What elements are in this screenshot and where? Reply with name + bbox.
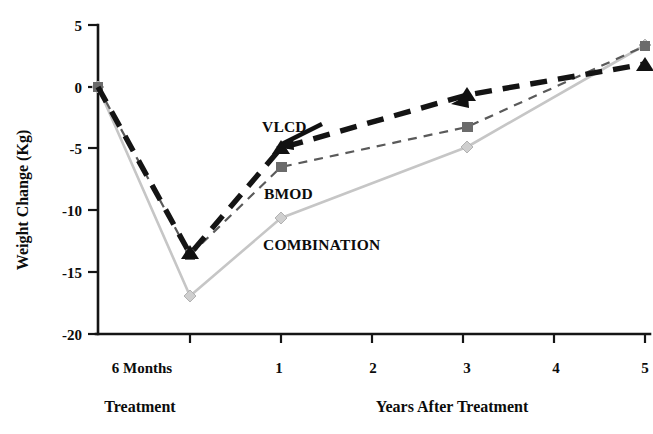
x-tick-label-3: 3 [463, 360, 471, 376]
vlcd-markers [181, 57, 653, 259]
y-tick-label-5: 5 [75, 18, 83, 34]
y-tick-label-m5: -5 [70, 141, 83, 157]
bmod-marker-year-1 [276, 162, 287, 172]
y-tick-label-m15: -15 [62, 265, 82, 281]
y-tick-label-0: 0 [75, 80, 83, 96]
y-axis-title: Weight Change (Kg) [14, 130, 32, 270]
chart-canvas: Weight Change (Kg) 5 0 -5 -10 -15 -20 [0, 0, 653, 434]
vlcd-marker-year-5 [636, 57, 653, 71]
series-bmod [93, 41, 650, 260]
x-axis-title: Years After Treatment [376, 398, 529, 415]
series-label-bmod: BMOD [264, 185, 313, 202]
y-tick-group: 5 0 -5 -10 -15 -20 [62, 18, 98, 343]
x-axis-title-left: Treatment [104, 398, 176, 415]
series-label-vlcd: VLCD [262, 118, 307, 135]
y-tick-label-m20: -20 [62, 327, 82, 343]
series-label-combination: COMBINATION [263, 236, 380, 253]
x-tick-group: 6 Months 1 2 3 4 5 [112, 334, 649, 376]
axes-group [96, 25, 650, 334]
bmod-marker-year-3 [462, 122, 473, 132]
x-tick-label-5: 5 [641, 360, 649, 376]
y-tick-label-m10: -10 [62, 203, 82, 219]
x-tick-label-1: 1 [275, 360, 283, 376]
x-tick-label-2: 2 [369, 360, 377, 376]
x-tick-label-4: 4 [552, 360, 560, 376]
weight-change-line-chart: Weight Change (Kg) 5 0 -5 -10 -15 -20 [0, 0, 653, 434]
bmod-markers [93, 41, 650, 260]
combination-marker-year-3 [461, 141, 473, 153]
bmod-marker-year-5 [640, 41, 650, 51]
x-tick-label-6-months: 6 Months [112, 360, 173, 376]
